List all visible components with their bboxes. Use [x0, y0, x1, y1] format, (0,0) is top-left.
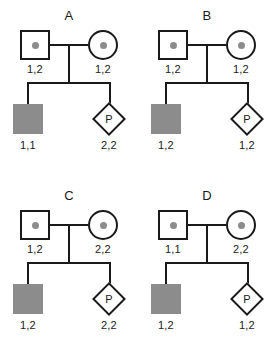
child1-genotype: 1,2 [146, 139, 186, 151]
child2-genotype: 2,2 [89, 319, 129, 331]
proband-label: P [232, 284, 262, 314]
generation-2: P [0, 180, 138, 359]
generation-2: P [0, 0, 138, 179]
mother-genotype: 2,2 [221, 243, 261, 255]
mother-genotype: 1,2 [83, 63, 123, 75]
child-prenatal-diamond[interactable]: P [232, 104, 262, 134]
father-genotype: 1,2 [15, 63, 55, 75]
child-prenatal-diamond[interactable]: P [94, 104, 124, 134]
pedigree-panel-b: B P 1,2 1,2 1,2 1,2 [138, 0, 276, 179]
child2-genotype: 2,2 [89, 139, 129, 151]
mother-genotype: 1,2 [221, 63, 261, 75]
child1-genotype: 1,2 [8, 319, 48, 331]
generation-2: P [138, 180, 276, 359]
child-affected-square[interactable] [13, 104, 43, 134]
father-genotype: 1,2 [153, 63, 193, 75]
proband-label: P [232, 104, 262, 134]
pedigree-panel-a: A P 1,2 1,2 1,1 2,2 [0, 0, 138, 179]
proband-label: P [94, 104, 124, 134]
generation-2: P [138, 0, 276, 179]
pedigree-panel-d: D P 1,1 2,2 1,2 1,2 [138, 180, 276, 359]
mother-genotype: 2,2 [83, 243, 123, 255]
child-affected-square[interactable] [13, 284, 43, 314]
pedigree-panel-c: C P 1,2 2,2 1,2 2,2 [0, 180, 138, 359]
child1-genotype: 1,1 [8, 139, 48, 151]
child1-genotype: 1,2 [146, 319, 186, 331]
child-affected-square[interactable] [151, 284, 181, 314]
proband-label: P [94, 284, 124, 314]
child-prenatal-diamond[interactable]: P [94, 284, 124, 314]
child2-genotype: 1,2 [227, 139, 267, 151]
father-genotype: 1,2 [15, 243, 55, 255]
child2-genotype: 1,2 [227, 319, 267, 331]
pedigree-figure: A P 1,2 1,2 1,1 2,2 B [0, 0, 276, 359]
child-affected-square[interactable] [151, 104, 181, 134]
child-prenatal-diamond[interactable]: P [232, 284, 262, 314]
father-genotype: 1,1 [153, 243, 193, 255]
